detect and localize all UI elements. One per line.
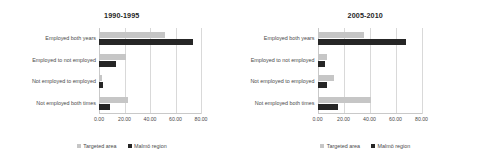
x-tick-label: 80.00 [415, 116, 428, 122]
bar-targeted-area [99, 75, 102, 81]
bar-malmo-region [99, 82, 103, 88]
bar-malmo-region [99, 61, 116, 67]
x-axis-tick-labels: 0.0020.0040.0060.0080.00 [99, 116, 201, 126]
x-axis-tick-labels: 0.0020.0040.0060.0080.00 [318, 116, 422, 126]
category-axis-labels: Employed both years Employed to not empl… [6, 28, 99, 114]
legend-swatch-icon [128, 144, 132, 148]
bar-group [318, 52, 422, 69]
category-label: Employed both years [246, 30, 315, 47]
chart-title: 2005-2010 [244, 11, 487, 20]
bar-targeted-area [99, 97, 128, 103]
bar-groups [318, 28, 422, 114]
category-label: Employed to not employed [6, 52, 96, 69]
bar-malmo-region [318, 39, 406, 45]
x-tick-label: 20.00 [118, 116, 131, 122]
legend-swatch-icon [77, 144, 81, 148]
x-tick-label: 80.00 [195, 116, 208, 122]
x-tick-label: 20.00 [337, 116, 350, 122]
bar-targeted-area [99, 54, 126, 60]
x-tick-label: 60.00 [169, 116, 182, 122]
x-tick-label: 0.00 [312, 116, 322, 122]
bar-malmo-region [318, 82, 327, 88]
bar-malmo-region [318, 104, 339, 110]
bar-group [318, 73, 422, 90]
bar-targeted-area [99, 32, 165, 38]
bar-malmo-region [99, 39, 193, 45]
x-tick-label: 40.00 [363, 116, 376, 122]
legend-label: Targeted area [327, 143, 360, 149]
category-label: Not employed both times [6, 95, 96, 112]
x-tick-label: 0.00 [94, 116, 104, 122]
bar-targeted-area [318, 32, 365, 38]
bar-malmo-region [318, 61, 326, 67]
legend-swatch-icon [371, 144, 375, 148]
x-tick-label: 40.00 [144, 116, 157, 122]
category-label: Not employed to employed [6, 73, 96, 90]
legend-item-targeted-area: Targeted area [320, 143, 360, 149]
bar-group [318, 30, 422, 47]
chart-legend: Targeted area Malmö region [0, 143, 244, 149]
category-axis-labels: Employed both years Employed to not empl… [246, 28, 318, 114]
bar-group [99, 73, 201, 90]
legend-label: Targeted area [83, 143, 116, 149]
legend-item-targeted-area: Targeted area [77, 143, 117, 149]
bar-group [99, 30, 201, 47]
plot-area [318, 28, 422, 114]
chart-title: 1990-1995 [0, 11, 244, 20]
legend-item-malmo-region: Malmö region [371, 143, 410, 149]
bar-groups [99, 28, 201, 114]
category-label: Not employed to employed [246, 73, 315, 90]
plot-area [99, 28, 201, 114]
x-axis-line [99, 113, 201, 114]
bar-targeted-area [318, 75, 335, 81]
bar-targeted-area [318, 97, 371, 103]
bar-targeted-area [318, 54, 328, 60]
bar-malmo-region [99, 104, 110, 110]
x-tick-label: 60.00 [389, 116, 402, 122]
bar-group [318, 95, 422, 112]
category-label: Employed both years [6, 30, 96, 47]
legend-item-malmo-region: Malmö region [128, 143, 167, 149]
bar-group [99, 52, 201, 69]
bar-group [99, 95, 201, 112]
chart-legend: Targeted area Malmö region [244, 143, 487, 149]
legend-label: Malmö region [378, 143, 411, 149]
chart-panel-2005-2010: 2005-2010 Employed both years Employed t… [244, 0, 487, 155]
x-axis-line [318, 113, 422, 114]
legend-label: Malmö region [134, 143, 167, 149]
category-label: Not employed both times [246, 95, 315, 112]
gridline [201, 28, 202, 114]
category-label: Employed to not employed [246, 52, 315, 69]
chart-panel-1990-1995: 1990-1995 Employed both years Employed t… [0, 0, 244, 155]
gridline [422, 28, 423, 114]
legend-swatch-icon [320, 144, 324, 148]
grouped-bar-chart-figure: 1990-1995 Employed both years Employed t… [0, 0, 487, 155]
